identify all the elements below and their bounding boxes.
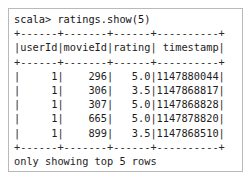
dataframe-table: +------+-------+------+----------+ |user… <box>14 26 242 154</box>
table-separator-header: +------+-------+------+----------+ <box>14 55 242 69</box>
table-header-row: |userId|movieId|rating| timestamp| <box>14 40 242 54</box>
table-separator-bottom: +------+-------+------+----------+ <box>14 140 242 154</box>
table-row: | 1| 306| 3.5|1147868817| <box>14 83 242 97</box>
scala-prompt-line: scala> ratings.show(5) <box>14 12 242 26</box>
table-separator-top: +------+-------+------+----------+ <box>14 26 242 40</box>
console-output-panel[interactable]: scala> ratings.show(5) +------+-------+-… <box>8 8 243 172</box>
table-row: | 1| 665| 5.0|1147878820| <box>14 111 242 125</box>
table-row: | 1| 296| 5.0|1147880044| <box>14 69 242 83</box>
table-row: | 1| 899| 3.5|1147868510| <box>14 126 242 140</box>
truncation-note: only showing top 5 rows <box>14 154 242 168</box>
table-row: | 1| 307| 5.0|1147868828| <box>14 97 242 111</box>
